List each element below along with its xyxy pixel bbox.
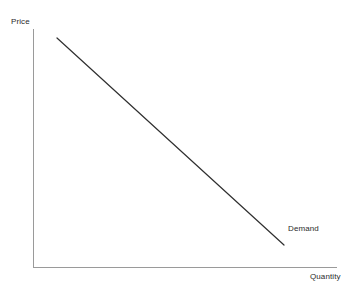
demand-curve-figure: Price Quantity Demand [0, 0, 360, 294]
demand-series-label: Demand [288, 224, 319, 234]
y-axis-label: Price [11, 17, 30, 27]
x-axis-label: Quantity [310, 272, 341, 282]
chart-canvas [0, 0, 360, 294]
demand-curve-line [57, 38, 284, 245]
